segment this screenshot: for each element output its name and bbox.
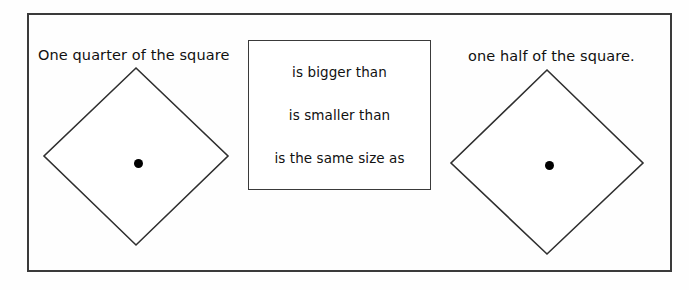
option-is-the-same-size-as[interactable]: is the same size as (274, 150, 404, 166)
right-diamond-center-dot (545, 161, 554, 170)
left-statement-label: One quarter of the square (38, 47, 229, 63)
right-statement-label: one half of the square. (468, 48, 635, 64)
worksheet-page: One quarter of the square one half of th… (0, 0, 689, 290)
option-is-bigger-than[interactable]: is bigger than (292, 64, 387, 80)
left-diamond-svg (42, 66, 230, 247)
left-diamond-center-dot (134, 159, 143, 168)
option-is-smaller-than[interactable]: is smaller than (289, 107, 390, 123)
left-diamond-shape (42, 66, 230, 247)
comparison-options-box: is bigger than is smaller than is the sa… (248, 40, 431, 190)
left-diamond-polygon (44, 68, 228, 245)
